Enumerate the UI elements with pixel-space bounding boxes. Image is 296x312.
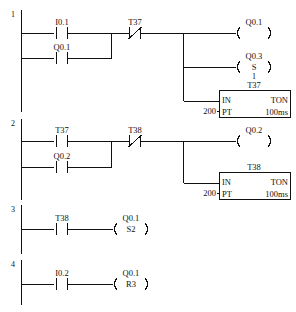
timer-preset: 200 — [203, 106, 216, 116]
coil-q0-3-set[interactable]: Q0.3 S 1 — [238, 51, 271, 81]
contact-label: T38 — [55, 213, 69, 223]
contact-label: I0.2 — [55, 268, 68, 278]
contact-label: Q0.2 — [54, 151, 71, 161]
timer-label: T37 — [247, 80, 261, 90]
coil-inner: R3 — [126, 279, 136, 289]
coil-inner: S — [252, 62, 257, 72]
rung-4: 4 I0.2 Q0.1 R3 — [11, 260, 148, 305]
timer-type-label: TON — [271, 177, 288, 187]
timer-block-t38[interactable]: T38 IN TON PT 100ms 200 — [203, 162, 290, 200]
coil-paren-right — [145, 223, 148, 235]
timer-pt-label: PT — [222, 189, 233, 199]
timer-timebase: 100ms — [265, 107, 288, 117]
coil-label: Q0.1 — [123, 213, 140, 223]
contact-i0-1[interactable]: I0.1 — [55, 17, 68, 39]
timer-type-label: TON — [271, 95, 288, 105]
coil-q0-1-reset[interactable]: Q0.1 R3 — [115, 268, 148, 290]
contact-slash — [129, 27, 142, 39]
contact-slash — [129, 135, 142, 147]
contact-i0-2[interactable]: I0.2 — [55, 268, 68, 290]
contact-t38-no[interactable]: T38 — [55, 213, 69, 235]
contact-label: T38 — [128, 125, 142, 135]
contact-t38-nc[interactable]: T38 — [128, 125, 142, 147]
rung-number: 3 — [11, 205, 15, 214]
coil-paren-left — [115, 278, 118, 290]
coil-paren-left — [115, 223, 118, 235]
timer-preset: 200 — [203, 188, 216, 198]
timer-block-t37[interactable]: T37 IN TON PT 100ms 200 — [203, 80, 290, 118]
coil-paren-left — [238, 61, 241, 73]
timer-pt-label: PT — [222, 107, 233, 117]
contact-q0-2[interactable]: Q0.2 — [54, 151, 71, 173]
rung-3: 3 T38 Q0.1 S2 — [11, 205, 148, 254]
contact-q0-1[interactable]: Q0.1 — [54, 42, 71, 64]
coil-label: Q0.1 — [123, 268, 140, 278]
coil-paren-right — [268, 61, 271, 73]
coil-label: Q0.2 — [246, 125, 263, 135]
contact-label: Q0.1 — [54, 42, 71, 52]
timer-timebase: 100ms — [265, 189, 288, 199]
contact-t37-nc[interactable]: T37 — [128, 17, 142, 39]
coil-paren-right — [145, 278, 148, 290]
coil-q0-2[interactable]: Q0.2 — [238, 125, 271, 147]
contact-label: I0.1 — [55, 17, 68, 27]
rung-number: 2 — [11, 119, 15, 128]
coil-paren-left — [238, 27, 241, 39]
timer-in-label: IN — [222, 177, 231, 187]
ladder-logic-diagram: 1 I0.1 Q0.1 T37 Q — [0, 0, 296, 312]
rung-1: 1 I0.1 Q0.1 T37 Q — [11, 10, 291, 118]
timer-in-label: IN — [222, 95, 231, 105]
coil-label: Q0.3 — [246, 51, 263, 61]
contact-label: T37 — [55, 125, 69, 135]
coil-paren-right — [268, 27, 271, 39]
rung-number: 4 — [11, 260, 15, 269]
coil-q0-1-set[interactable]: Q0.1 S2 — [115, 213, 148, 235]
coil-label: Q0.1 — [246, 17, 263, 27]
contact-t37-no[interactable]: T37 — [55, 125, 69, 147]
rung-2: 2 T37 Q0.2 T38 Q0.2 — [11, 119, 291, 200]
coil-q0-1[interactable]: Q0.1 — [238, 17, 271, 39]
rung-number: 1 — [11, 10, 15, 19]
coil-paren-left — [238, 135, 241, 147]
contact-label: T37 — [128, 17, 142, 27]
coil-paren-right — [268, 135, 271, 147]
coil-inner: S2 — [127, 224, 136, 234]
timer-label: T38 — [247, 162, 261, 172]
